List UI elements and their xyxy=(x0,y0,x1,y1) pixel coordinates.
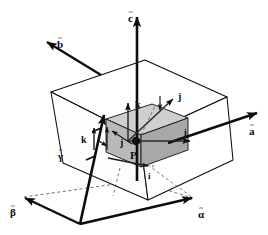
angle-gamma-text: γ xyxy=(58,151,63,162)
vector-i-bottom-label: i xyxy=(148,172,151,181)
axis-a-label: ~ a xyxy=(249,123,255,137)
b-axis-arrow xyxy=(47,42,101,75)
angle-beta-label: ~ β xyxy=(10,204,16,218)
vector-k-inner-label: k xyxy=(135,100,141,110)
axis-c-label: ~ c xyxy=(128,10,133,24)
point-p-marker xyxy=(132,137,141,146)
crystal-lattice-figure xyxy=(0,0,268,235)
angle-beta-text: β xyxy=(10,207,16,218)
axis-b-text: b xyxy=(57,39,63,50)
vector-j-upper-label: j xyxy=(178,92,181,102)
vector-i-right-label: i xyxy=(184,128,187,138)
beta-edge-arrow xyxy=(25,198,80,224)
angle-gamma-label: ~ γ xyxy=(58,148,63,162)
axis-b-label: ~ b xyxy=(57,36,63,50)
point-p-label: P xyxy=(130,150,137,161)
angle-alpha-label: ~ α xyxy=(198,206,204,220)
alpha-edge-arrow xyxy=(80,198,192,224)
angle-alpha-text: α xyxy=(198,209,204,220)
vector-j-inner-label: j xyxy=(120,138,123,148)
axis-a-text: a xyxy=(249,126,255,137)
axis-c-text: c xyxy=(128,13,133,24)
vector-k-outer-label: k xyxy=(81,135,87,145)
